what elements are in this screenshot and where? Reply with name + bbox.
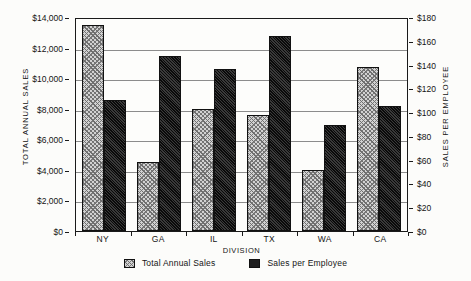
right-axis-tickmark: [409, 113, 413, 114]
bar-group: [76, 19, 131, 231]
bar-sales-per-employee[interactable]: [104, 100, 126, 231]
right-axis-title: SALES PER EMPLOYEE: [441, 32, 450, 202]
bar-group: [186, 19, 241, 231]
legend-item[interactable]: Total Annual Sales: [124, 258, 216, 268]
x-axis-label-ga: GA: [131, 234, 187, 244]
right-axis-tickmark: [409, 137, 413, 138]
bar-sales-per-employee[interactable]: [159, 56, 181, 231]
right-axis-tickmark: [409, 208, 413, 209]
right-axis-tickmark: [409, 161, 413, 162]
bar-group: [131, 19, 186, 231]
left-axis-tickmark: [65, 18, 69, 19]
right-axis-tick-label: $120: [417, 84, 436, 94]
x-axis-tickmark: [408, 232, 409, 236]
right-axis-tickmark: [409, 18, 413, 19]
x-axis-labels: NYGAILTXWACA: [75, 234, 408, 244]
x-axis-label-ca: CA: [353, 234, 409, 244]
right-axis-tick-label: $160: [417, 37, 436, 47]
plot-area: [75, 18, 408, 232]
legend-item[interactable]: Sales per Employee: [249, 258, 347, 268]
bar-total-annual-sales[interactable]: [357, 67, 379, 231]
right-axis-tickmark: [409, 232, 413, 233]
bar-total-annual-sales[interactable]: [247, 115, 269, 231]
right-axis-tick-label: $20: [417, 203, 431, 213]
left-axis-tickmark: [65, 79, 69, 80]
left-axis-tick-label: $10,000: [32, 74, 63, 84]
left-axis-title: TOTAL ANNUAL SALES: [21, 37, 30, 197]
chart-legend: Total Annual SalesSales per Employee: [0, 258, 471, 268]
legend-label: Total Annual Sales: [142, 258, 216, 268]
right-axis-tick-label: $80: [417, 132, 431, 142]
right-axis-tick-label: $40: [417, 179, 431, 189]
bar-sales-per-employee[interactable]: [214, 69, 236, 231]
right-axis-tickmark: [409, 89, 413, 90]
legend-label: Sales per Employee: [267, 258, 347, 268]
x-axis-label-il: IL: [186, 234, 242, 244]
bar-group: [297, 19, 352, 231]
left-axis-tick-label: $14,000: [32, 13, 63, 23]
left-axis: $0$2,000$4,000$6,000$8,000$10,000$12,000…: [0, 18, 71, 232]
x-axis-label-ny: NY: [75, 234, 131, 244]
bar-group: [242, 19, 297, 231]
left-axis-tick-label: $12,000: [32, 44, 63, 54]
right-axis-tick-label: $100: [417, 108, 436, 118]
bar-group: [352, 19, 407, 231]
bar-total-annual-sales[interactable]: [302, 170, 324, 231]
left-axis-tickmark: [65, 201, 69, 202]
left-axis-tick-label: $6,000: [37, 135, 63, 145]
bar-sales-per-employee[interactable]: [324, 125, 346, 231]
right-axis-tick-label: $0: [417, 227, 426, 237]
bar-sales-per-employee[interactable]: [379, 106, 401, 231]
bar-sales-per-employee[interactable]: [269, 36, 291, 231]
bar-total-annual-sales[interactable]: [82, 25, 104, 231]
legend-swatch-icon: [124, 259, 135, 268]
right-axis-tickmark: [409, 66, 413, 67]
left-axis-tick-label: $2,000: [37, 196, 63, 206]
right-axis-tickmark: [409, 184, 413, 185]
left-axis-tickmark: [65, 171, 69, 172]
chart-canvas: $0$2,000$4,000$6,000$8,000$10,000$12,000…: [0, 0, 471, 281]
right-axis-tick-label: $180: [417, 13, 436, 23]
right-axis-tickmark: [409, 42, 413, 43]
bar-total-annual-sales[interactable]: [137, 162, 159, 231]
left-axis-tick-label: $0: [54, 227, 63, 237]
left-axis-tickmark: [65, 140, 69, 141]
bar-total-annual-sales[interactable]: [192, 109, 214, 231]
left-axis-tickmark: [65, 49, 69, 50]
left-axis-tickmark: [65, 110, 69, 111]
x-axis-title: DIVISION: [75, 246, 408, 255]
bar-groups: [76, 19, 407, 231]
x-axis-label-tx: TX: [242, 234, 298, 244]
left-axis-tickmark: [65, 232, 69, 233]
left-axis-tick-label: $8,000: [37, 105, 63, 115]
x-axis-label-wa: WA: [297, 234, 353, 244]
right-axis-tick-label: $140: [417, 61, 436, 71]
right-axis-tick-label: $60: [417, 156, 431, 166]
left-axis-tick-label: $4,000: [37, 166, 63, 176]
legend-swatch-icon: [249, 259, 260, 268]
